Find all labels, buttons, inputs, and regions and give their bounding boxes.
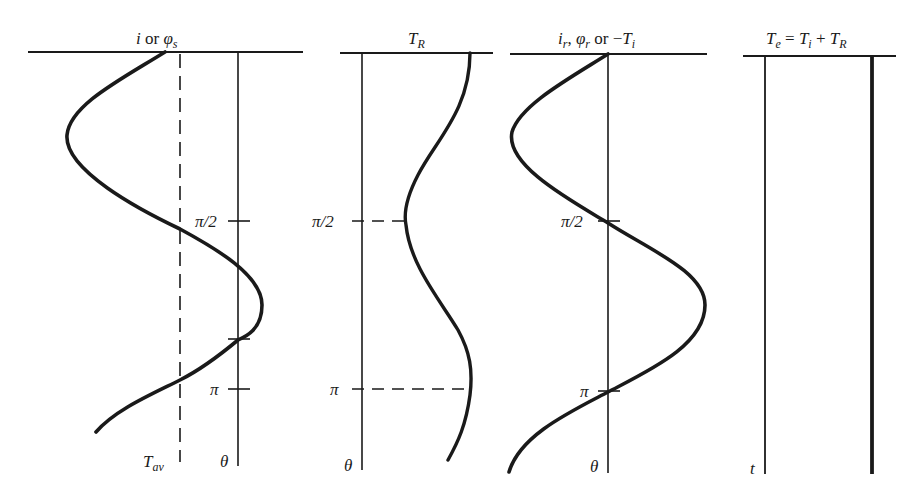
panel-1-label-pi: π — [210, 380, 219, 399]
panel-current-flux: i or φs π/2 π θ Tav — [28, 29, 303, 474]
panel-4-axis-label: t — [750, 459, 756, 478]
panel-electromagnetic-torque: Te = Ti + TR t — [743, 29, 896, 478]
waveform-diagram: i or φs π/2 π θ Tav TR π/2 π θ ir, φr or… — [0, 0, 921, 494]
panel-1-axis-label: θ — [220, 452, 228, 471]
panel-3-label-half-pi: π/2 — [561, 212, 583, 231]
reluctance-torque-waveform — [405, 53, 471, 460]
panel-2-axis-label: θ — [344, 456, 352, 475]
panel-3-axis-label: θ — [590, 457, 598, 476]
panel-3-label-pi: π — [580, 382, 589, 401]
average-torque-label: Tav — [143, 452, 164, 474]
panel-reluctance-torque: TR π/2 π θ — [312, 29, 493, 475]
panel-1-label-half-pi: π/2 — [195, 212, 217, 231]
panel-2-title: TR — [408, 29, 425, 51]
panel-3-title: ir, φr or −Ti — [558, 29, 635, 51]
stator-current-waveform — [67, 52, 262, 432]
rotor-current-waveform — [509, 54, 705, 472]
panel-4-title: Te = Ti + TR — [766, 29, 847, 51]
panel-rotor-current: ir, φr or −Ti π/2 π θ — [509, 29, 707, 476]
panel-2-label-half-pi: π/2 — [312, 212, 334, 231]
panel-2-label-pi: π — [330, 380, 339, 399]
panel-1-title: i or φs — [136, 29, 178, 51]
